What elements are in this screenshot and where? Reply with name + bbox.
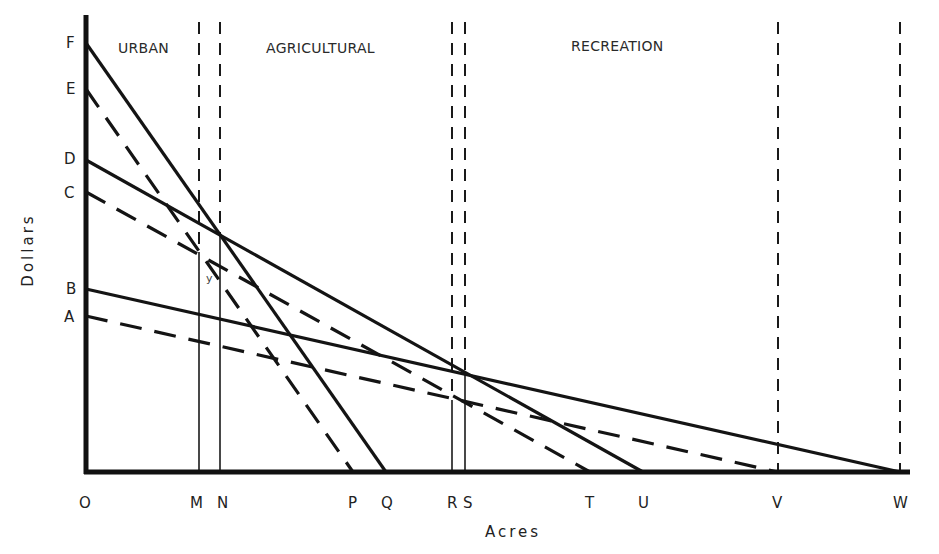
- x-tick-T: T: [585, 496, 594, 511]
- x-tick-O: O: [79, 496, 91, 511]
- x-tick-W: W: [893, 496, 908, 511]
- y-axis-title: Dollars: [19, 210, 37, 290]
- y-tick-A: A: [64, 310, 74, 325]
- x-tick-N: N: [217, 496, 228, 511]
- chart-canvas: y: [0, 0, 939, 554]
- y-tick-B: B: [66, 282, 76, 297]
- x-tick-R: R: [447, 496, 457, 511]
- line-D-U: [86, 160, 643, 472]
- x-tick-V: V: [772, 496, 782, 511]
- x-tick-P: P: [348, 496, 357, 511]
- region-label-agricultural: AGRICULTURAL: [266, 40, 375, 56]
- line-F-Q: [86, 43, 386, 472]
- region-label-urban: URBAN: [118, 40, 169, 56]
- x-tick-Q: Q: [381, 496, 393, 511]
- region-label-recreation: RECREATION: [571, 38, 664, 54]
- axes: [84, 15, 910, 474]
- y-tick-F: F: [66, 36, 75, 51]
- line-A-V: [86, 316, 778, 472]
- x-axis-title: Acres: [485, 523, 541, 541]
- annotations: y: [206, 272, 213, 285]
- x-tick-M: M: [190, 496, 203, 511]
- x-tick-S: S: [463, 496, 473, 511]
- zone-boundary-lines: [199, 22, 900, 472]
- x-tick-U: U: [638, 496, 649, 511]
- y-tick-E: E: [66, 82, 75, 97]
- annotation-mark: y: [206, 272, 213, 285]
- y-tick-D: D: [64, 152, 76, 167]
- y-tick-C: C: [64, 186, 74, 201]
